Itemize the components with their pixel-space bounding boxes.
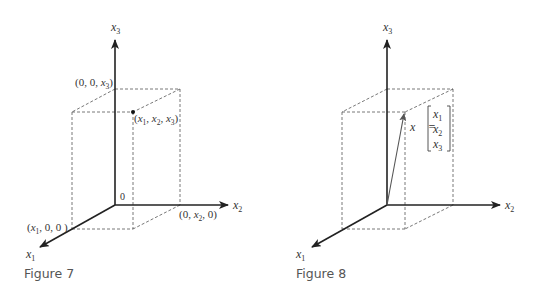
vector-component-3: x3 — [432, 137, 442, 153]
figure-8: x3 x2 x1 x⃗ = x1 x2 x3 — [295, 20, 514, 263]
x3-axis-label: x3 — [382, 20, 392, 36]
dashed-box — [72, 89, 180, 229]
vector-component-2: x2 — [432, 122, 442, 138]
point-0-x2-0-label: (0, x2, 0) — [179, 208, 217, 223]
figure-7: x3 x2 x1 0 (0, 0, x3) (x1, x2, x3) (0, x… — [25, 20, 242, 263]
vector-name: x⃗ = — [409, 120, 436, 134]
position-vector — [387, 114, 404, 205]
point-x1-0-0-label: (x1, 0, 0 ) — [27, 221, 68, 236]
point-0-0-x3-label: (0, 0, x3) — [75, 76, 113, 91]
right-bracket — [447, 106, 450, 151]
x2-axis-label: x2 — [504, 198, 514, 214]
x1-axis-label: x1 — [25, 247, 35, 263]
point-x1-x2-x3-label: (x1, x2, x3) — [134, 112, 179, 127]
figure-8-caption: Figure 8 — [296, 266, 346, 281]
x2-axis-label: x2 — [232, 198, 242, 214]
figure-7-caption: Figure 7 — [24, 266, 74, 281]
origin-label: 0 — [120, 191, 125, 202]
x3-axis-label: x3 — [110, 20, 120, 36]
x1-axis — [312, 205, 387, 247]
axes — [312, 40, 500, 247]
vector-label: x⃗ = x1 x2 x3 — [409, 106, 450, 153]
x1-axis-label: x1 — [295, 247, 305, 263]
figures-canvas: x3 x2 x1 0 (0, 0, x3) (x1, x2, x3) (0, x… — [0, 0, 544, 290]
vector-component-1: x1 — [432, 107, 442, 123]
